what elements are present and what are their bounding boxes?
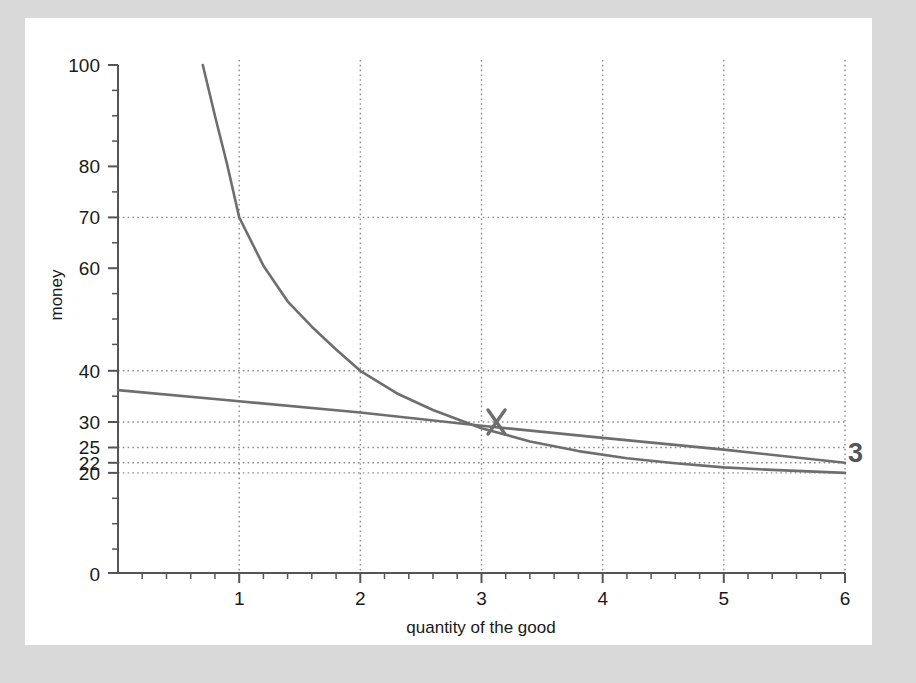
- indifference-curve: [203, 65, 845, 473]
- x-tick-label-5: 5: [719, 588, 730, 609]
- x-tick-label-1: 1: [234, 588, 245, 609]
- y-tick-label-100: 100: [68, 55, 100, 76]
- x-tick-label-3: 3: [476, 588, 487, 609]
- y-tick-label-20: 20: [79, 463, 100, 484]
- x-axis: 1 2 3 4 5 6: [118, 573, 850, 609]
- x-tick-label-4: 4: [597, 588, 608, 609]
- y-tick-label-80: 80: [79, 156, 100, 177]
- chart-canvas: 100 80 70 60 40 30 25 22 20 0: [0, 0, 916, 683]
- y-tick-label-60: 60: [79, 258, 100, 279]
- y-tick-label-70: 70: [79, 207, 100, 228]
- figure-root: 100 80 70 60 40 30 25 22 20 0: [0, 0, 916, 683]
- y-axis-title: money: [47, 269, 66, 321]
- gridlines-vertical: [239, 60, 845, 573]
- x-axis-title: quantity of the good: [406, 618, 555, 637]
- curve-label-3: 3: [848, 438, 863, 468]
- y-axis: 100 80 70 60 40 30 25 22 20 0: [68, 55, 118, 585]
- y-tick-label-0: 0: [89, 564, 100, 585]
- y-tick-label-40: 40: [79, 361, 100, 382]
- y-tick-label-30: 30: [79, 412, 100, 433]
- x-tick-label-2: 2: [355, 588, 366, 609]
- x-tick-label-6: 6: [840, 588, 851, 609]
